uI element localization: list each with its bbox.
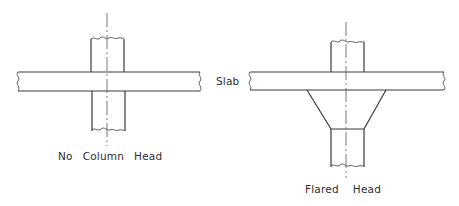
right-upper-column [331, 40, 364, 72]
caption-word-head: Head [134, 150, 162, 162]
caption-word-head-right: Head [353, 183, 381, 195]
caption-word-column: Column [83, 150, 124, 162]
left-column [91, 37, 125, 131]
no-column-head-figure [17, 13, 201, 146]
caption-flared-head: FlaredHead [305, 183, 381, 195]
flared-head-figure [249, 22, 445, 178]
caption-word-flared: Flared [305, 183, 339, 195]
right-lower-column [331, 129, 364, 167]
left-slab-break-right [199, 72, 201, 91]
left-column-break-bottom [92, 128, 125, 131]
caption-no-column-head: NoColumnHead [58, 150, 162, 162]
slab-label: Slab [216, 75, 239, 87]
column-head-diagram [0, 0, 459, 206]
caption-word-no: No [58, 150, 73, 162]
right-column-break-top [331, 40, 364, 43]
right-slab [249, 72, 445, 90]
left-slab-break-left [17, 72, 19, 91]
right-slab-break-left [249, 72, 251, 90]
flared-head [307, 90, 386, 129]
left-column-break-top [91, 37, 124, 39]
right-column-break-bottom [331, 164, 364, 167]
right-slab-break-right [443, 72, 445, 90]
left-slab [17, 72, 201, 91]
